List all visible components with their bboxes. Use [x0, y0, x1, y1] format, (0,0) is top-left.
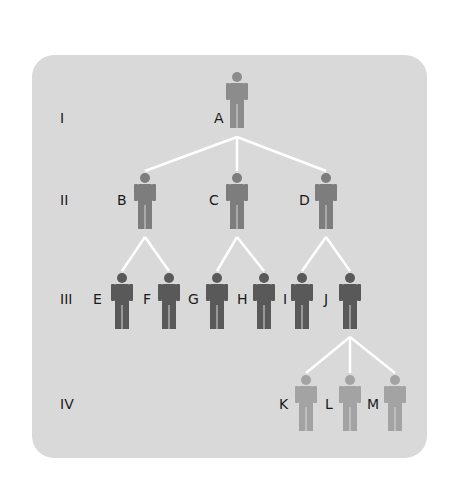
link-line-J-M	[350, 337, 395, 373]
generation-label-II: II	[60, 193, 68, 207]
link-line-D-J	[326, 237, 350, 271]
person-icon-C	[226, 173, 248, 229]
person-icon-L	[339, 375, 361, 431]
person-icon-I	[291, 273, 313, 329]
person-label-I: I	[283, 292, 287, 306]
link-line-B-E	[122, 237, 145, 271]
generation-label-IV: IV	[60, 397, 74, 411]
person-label-G: G	[188, 292, 199, 306]
person-label-A: A	[214, 111, 224, 125]
generation-label-III: III	[60, 292, 72, 306]
person-label-D: D	[299, 193, 310, 207]
person-icon-J	[339, 273, 361, 329]
person-label-E: E	[93, 292, 102, 306]
person-label-C: C	[209, 193, 219, 207]
person-icon-F	[158, 273, 180, 329]
person-label-H: H	[237, 292, 248, 306]
person-label-B: B	[117, 193, 127, 207]
link-line-C-G	[217, 237, 237, 271]
generation-label-I: I	[60, 111, 64, 125]
link-line-A-D	[237, 137, 326, 171]
person-label-F: F	[143, 292, 151, 306]
link-line-B-F	[145, 237, 169, 271]
person-label-K: K	[279, 397, 288, 411]
person-icon-D	[315, 173, 337, 229]
link-line-D-I	[302, 237, 326, 271]
link-line-J-K	[306, 337, 350, 373]
person-label-J: J	[324, 292, 328, 306]
person-icon-H	[253, 273, 275, 329]
person-icon-K	[295, 375, 317, 431]
person-icon-M	[384, 375, 406, 431]
person-label-M: M	[367, 397, 379, 411]
person-icon-G	[206, 273, 228, 329]
person-icon-A	[226, 72, 248, 128]
person-label-L: L	[325, 397, 333, 411]
person-icon-B	[134, 173, 156, 229]
link-line-A-B	[145, 137, 237, 171]
link-line-C-H	[237, 237, 264, 271]
person-icon-E	[111, 273, 133, 329]
